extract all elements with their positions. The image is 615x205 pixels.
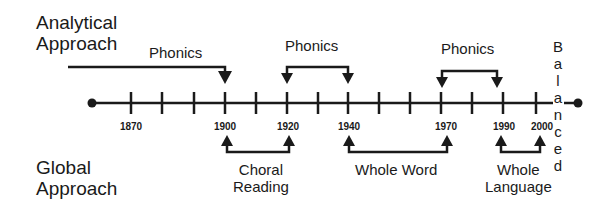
timeline-axis (88, 92, 583, 114)
year-1900: 1900 (214, 121, 236, 132)
label-line: Reading (233, 178, 289, 195)
year-1870: 1870 (120, 121, 142, 132)
year-1940: 1940 (338, 121, 360, 132)
whole-word-label: Whole Word (355, 161, 437, 178)
whole-word-arrow (349, 145, 447, 152)
label-line: Whole (485, 161, 552, 178)
balanced-letter: l (551, 72, 565, 89)
balanced-letter: e (551, 140, 565, 157)
label-line: Approach (36, 178, 117, 199)
choral-reading-label: Choral Reading (233, 161, 289, 195)
balanced-letter: a (551, 89, 565, 106)
phonics-label-2: Phonics (285, 37, 338, 54)
balanced-label: Balanced (551, 38, 565, 174)
label-line: Approach (36, 33, 117, 54)
global-approach-label: Global Approach (36, 157, 117, 199)
balanced-letter: c (551, 123, 565, 140)
balanced-letter: a (551, 55, 565, 72)
year-2000: 2000 (531, 121, 553, 132)
choral-reading-arrow (227, 145, 289, 152)
end-dot (574, 99, 583, 108)
phonics-label-1: Phonics (149, 44, 202, 61)
phonics-arrow-1 (68, 67, 225, 72)
year-1990: 1990 (493, 121, 515, 132)
balanced-letter: B (551, 38, 565, 55)
label-line: Analytical (36, 12, 117, 33)
phonics-arrow-3 (442, 71, 497, 78)
phonics-arrow-2 (287, 67, 348, 74)
label-line: Choral (233, 161, 289, 178)
year-1920: 1920 (277, 121, 299, 132)
start-dot (88, 99, 97, 108)
whole-language-label: Whole Language (485, 161, 552, 195)
label-line: Language (485, 178, 552, 195)
label-line: Global (36, 157, 117, 178)
year-1970: 1970 (435, 121, 457, 132)
whole-language-arrow (501, 145, 540, 152)
balanced-letter: n (551, 106, 565, 123)
phonics-label-3: Phonics (441, 40, 494, 57)
analytical-approach-label: Analytical Approach (36, 12, 117, 54)
balanced-letter: d (551, 157, 565, 174)
